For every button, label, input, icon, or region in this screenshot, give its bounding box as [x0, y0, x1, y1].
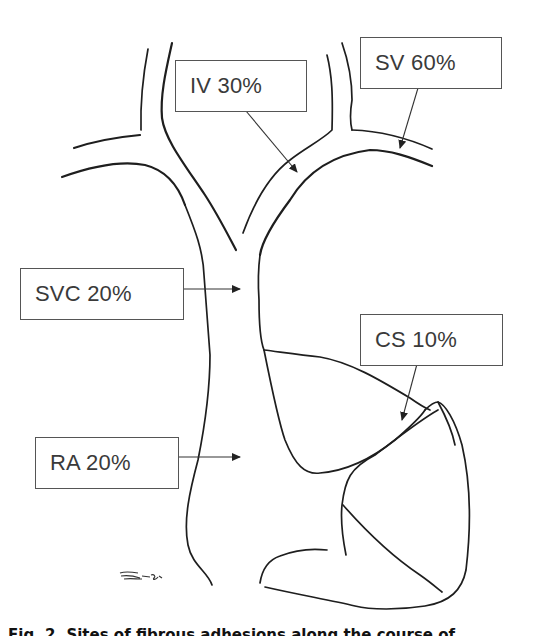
label-coronary-sinus: CS 10%	[360, 314, 503, 366]
label-text: RA 20%	[50, 450, 131, 476]
label-subclavian-vein: SV 60%	[360, 37, 502, 89]
superior-vena-cava	[185, 205, 425, 585]
label-superior-vena-cava: SVC 20%	[20, 268, 184, 320]
sv-pointer	[400, 88, 418, 148]
label-right-atrium: RA 20%	[35, 437, 179, 489]
callout-pointers	[178, 88, 418, 457]
cs-pointer	[402, 364, 417, 420]
label-text: CS 10%	[375, 327, 457, 353]
label-text: SV 60%	[375, 50, 456, 76]
artist-signature	[118, 570, 164, 582]
iv-pointer	[246, 111, 297, 172]
figure-caption: Fig. 2. Sites of fibrous adhesions along…	[8, 622, 548, 636]
label-text: SVC 20%	[35, 281, 132, 307]
heart-outline	[260, 350, 469, 609]
label-text: IV 30%	[190, 73, 262, 99]
label-innominate-vein: IV 30%	[175, 60, 307, 112]
